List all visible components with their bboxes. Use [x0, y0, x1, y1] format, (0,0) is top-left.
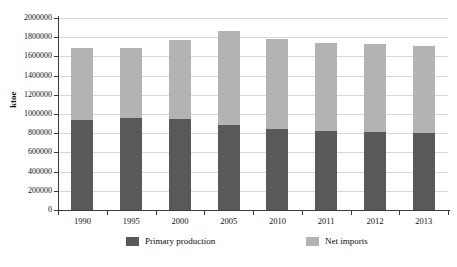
x-axis-tick-label: 2012 [351, 216, 399, 226]
gridline [58, 76, 448, 77]
x-axis-tick-mark [351, 211, 352, 215]
gridline [58, 95, 448, 96]
x-axis-tick-mark [253, 211, 254, 215]
y-axis-tick-label: 1600000 [4, 52, 52, 60]
bar-segment-net-imports [315, 43, 337, 131]
bar-group [120, 18, 142, 210]
legend-swatch-primary-production [126, 237, 139, 246]
y-axis-tick-label: 1000000 [4, 110, 52, 118]
bar-segment-net-imports [71, 48, 93, 120]
y-axis-tick-mark [54, 76, 59, 77]
y-axis-tick-label: 600000 [4, 148, 52, 156]
x-axis-tick-mark [107, 211, 108, 215]
x-axis-tick-label: 2011 [302, 216, 350, 226]
bar-group [218, 18, 240, 210]
bar-group [315, 18, 337, 210]
legend-label-primary-production: Primary production [145, 236, 215, 246]
y-axis-tick-mark [54, 172, 59, 173]
x-axis-tick-label: 2010 [253, 216, 301, 226]
x-axis-tick-mark [204, 211, 205, 215]
gridline [58, 191, 448, 192]
x-axis-tick-label: 2000 [156, 216, 204, 226]
bar-segment-net-imports [266, 39, 288, 129]
y-axis-tick-label: 200000 [4, 187, 52, 195]
bar-group [169, 18, 191, 210]
bar-group [364, 18, 386, 210]
bar-segment-net-imports [218, 31, 240, 125]
x-axis-tick-label: 2013 [400, 216, 448, 226]
gridline [58, 18, 448, 19]
bar-group [413, 18, 435, 210]
legend-entry-primary-production: Primary production [126, 236, 215, 246]
bar-segment-primary-production [218, 125, 240, 210]
y-axis-tick-mark [54, 56, 59, 57]
gridline [58, 152, 448, 153]
bar-segment-net-imports [413, 46, 435, 133]
y-axis-tick-label: 1200000 [4, 91, 52, 99]
y-axis-tick-mark [54, 191, 59, 192]
bar-segment-primary-production [120, 118, 142, 210]
y-axis-tick-mark [54, 95, 59, 96]
bar-segment-primary-production [315, 131, 337, 210]
y-axis-tick-label: 800000 [4, 129, 52, 137]
chart-legend: Primary production Net imports [58, 236, 448, 256]
y-axis-tick-mark [54, 152, 59, 153]
gridline [58, 56, 448, 57]
x-axis-tick-mark [58, 211, 59, 215]
bar-segment-primary-production [266, 129, 288, 210]
x-axis-tick-mark [448, 211, 449, 215]
y-axis-tick-label: 0 [4, 206, 52, 214]
bar-segment-net-imports [169, 40, 191, 119]
bar-segment-primary-production [413, 133, 435, 210]
y-axis-tick-mark [54, 37, 59, 38]
x-axis-tick-label: 2005 [205, 216, 253, 226]
bar-segment-primary-production [169, 119, 191, 210]
legend-entry-net-imports: Net imports [306, 236, 368, 246]
gridline [58, 172, 448, 173]
plot-area [58, 18, 448, 210]
y-axis-tick-label: 400000 [4, 168, 52, 176]
y-axis-tick-mark [54, 133, 59, 134]
x-axis-tick-mark [302, 211, 303, 215]
legend-swatch-net-imports [306, 237, 319, 246]
x-axis-tick-mark [399, 211, 400, 215]
x-axis-tick-mark [156, 211, 157, 215]
bar-group [266, 18, 288, 210]
gridline [58, 114, 448, 115]
bar-group [71, 18, 93, 210]
gridline [58, 37, 448, 38]
bar-segment-primary-production [364, 132, 386, 210]
gridline [58, 133, 448, 134]
y-axis-tick-mark [54, 114, 59, 115]
y-axis-tick-label: 2000000 [4, 14, 52, 22]
bar-segment-net-imports [120, 48, 142, 118]
bar-segment-net-imports [364, 44, 386, 131]
legend-label-net-imports: Net imports [325, 236, 368, 246]
x-axis-tick-label: 1990 [58, 216, 106, 226]
y-axis-tick-label: 1400000 [4, 72, 52, 80]
y-axis-tick-label: 1800000 [4, 33, 52, 41]
x-axis-tick-label: 1995 [107, 216, 155, 226]
y-axis-tick-labels: 2000000180000016000001400000120000010000… [0, 0, 52, 267]
stacked-bar-chart: ktoe 20000001800000160000014000001200000… [0, 0, 457, 267]
y-axis-tick-mark [54, 18, 59, 19]
bar-segment-primary-production [71, 120, 93, 210]
